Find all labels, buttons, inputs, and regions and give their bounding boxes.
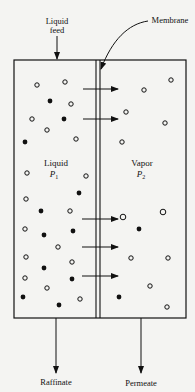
- liquid-filled-molecules: [21, 99, 82, 308]
- membrane-label: Membrane: [152, 15, 189, 25]
- membrane-pointer-arrow: [101, 21, 148, 69]
- permeate-label: Permeate: [125, 378, 157, 388]
- liquid-open-molecules: [23, 80, 88, 301]
- raffinate-label: Raffinate: [40, 377, 72, 387]
- feed-label-line2: feed: [50, 25, 65, 35]
- liquid-pressure-label: P1: [49, 169, 59, 180]
- pervaporation-diagram: Liquid feed Membrane: [0, 0, 195, 392]
- vapor-pressure-label: P2: [136, 169, 146, 180]
- vapor-open-molecules: [120, 78, 173, 309]
- vapor-filled-molecules: [117, 227, 142, 300]
- liquid-label: Liquid: [44, 158, 68, 168]
- vapor-label: Vapor: [131, 158, 153, 168]
